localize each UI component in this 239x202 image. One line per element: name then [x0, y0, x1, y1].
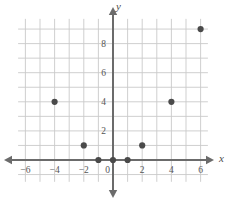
- data-point: [198, 26, 204, 32]
- data-point: [81, 142, 87, 148]
- y-axis-label: y: [115, 0, 121, 12]
- x-tick-label: −6: [20, 165, 30, 175]
- x-tick-label: 0: [105, 165, 110, 175]
- x-tick-label: 2: [140, 165, 145, 175]
- data-point: [95, 157, 101, 163]
- data-point: [110, 157, 116, 163]
- coordinate-plane-graph: −6−4−202462468 x y: [0, 0, 239, 202]
- x-tick-label: 6: [198, 165, 203, 175]
- y-tick-label: 6: [101, 68, 106, 78]
- scatter-plot-svg: −6−4−202462468 x y: [0, 0, 239, 202]
- data-point: [125, 157, 131, 163]
- data-point: [168, 99, 174, 105]
- y-tick-label: 2: [101, 126, 106, 136]
- data-point: [52, 99, 58, 105]
- x-tick-label: −4: [50, 165, 60, 175]
- x-tick-label: −2: [79, 165, 89, 175]
- y-tick-label: 8: [101, 39, 106, 49]
- x-axis-label: x: [218, 152, 224, 164]
- data-point: [139, 142, 145, 148]
- x-tick-label: 4: [169, 165, 174, 175]
- y-tick-label: 4: [101, 97, 106, 107]
